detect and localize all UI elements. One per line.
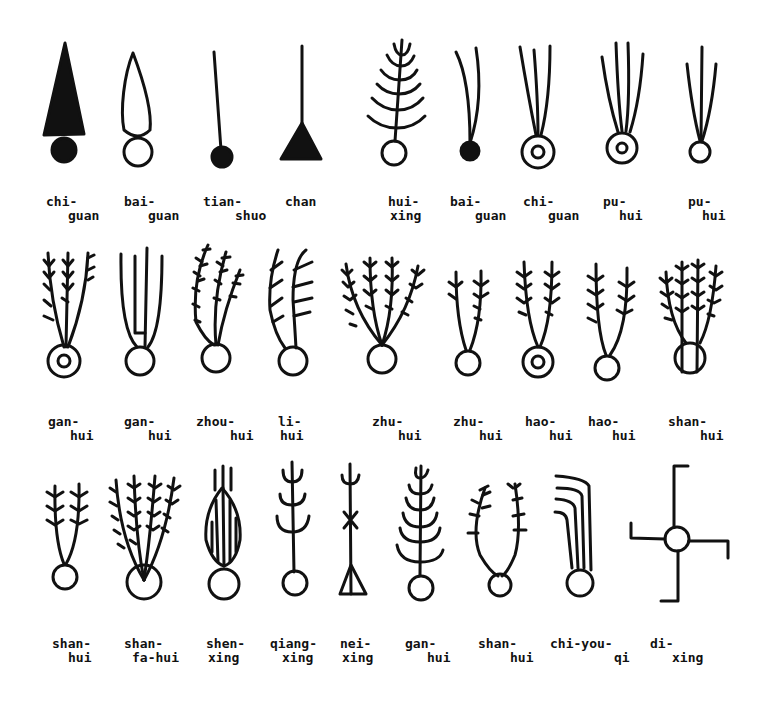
label-shan-hui-1: shan-hui xyxy=(668,415,723,443)
comet-di-xing xyxy=(631,466,728,601)
comet-gan-hui-2 xyxy=(121,248,162,375)
comet-diagram: chi-guanbai-guantian-shuochanhui-xingbai… xyxy=(0,0,768,704)
comet-bai-guan-1 xyxy=(122,53,152,166)
label-chi-guan-2: chi-guan xyxy=(523,195,579,223)
label-qiang-xing: qiang-xing xyxy=(270,637,317,665)
comet-pu-hui-1 xyxy=(602,43,643,163)
label-zhu-hui-2: zhu-hui xyxy=(453,415,502,443)
label-di-xing: di-xing xyxy=(650,637,703,665)
comet-zhu-hui-1 xyxy=(342,258,424,373)
label-chan: chan xyxy=(285,195,316,209)
label-hao-hui-2: hao-hui xyxy=(588,415,635,443)
label-chi-guan-1: chi-guan xyxy=(46,195,99,223)
label-bai-guan-1: bai-guan xyxy=(124,195,179,223)
comet-zhou-hui xyxy=(193,245,243,372)
comet-li-hui xyxy=(270,250,312,375)
label-shan-hui-2: shan-hui xyxy=(52,637,91,665)
comet-tian-shuo xyxy=(212,52,232,167)
label-chi-you-qi: chi-you-qi xyxy=(550,637,630,665)
label-pu-hui-1: pu-hui xyxy=(603,195,642,223)
label-zhou-hui: zhou-hui xyxy=(196,415,253,443)
comet-qiang-xing xyxy=(277,462,309,595)
comet-pu-hui-2 xyxy=(687,47,716,162)
label-zhu-hui-1: zhu-hui xyxy=(372,415,421,443)
comet-nei-xing xyxy=(340,464,366,594)
comet-shan-hui-2 xyxy=(47,484,87,589)
label-shan-fa-hui: shan-fa-hui xyxy=(124,637,179,665)
label-pu-hui-2: pu-hui xyxy=(688,195,725,223)
label-nei-xing: nei-xing xyxy=(340,637,373,665)
comet-chi-guan-2 xyxy=(520,46,554,168)
label-shan-hui-3: shan-hui xyxy=(478,637,533,665)
comet-drawings xyxy=(0,0,768,704)
comet-bai-guan-2 xyxy=(456,48,479,160)
label-tian-shuo: tian-shuo xyxy=(203,195,266,223)
comet-hao-hui-1 xyxy=(517,262,559,377)
comet-chi-guan-1 xyxy=(44,43,84,162)
comet-gan-hui-1 xyxy=(44,253,94,377)
comet-shan-hui-3 xyxy=(468,484,526,596)
label-hao-hui-1: hao-hui xyxy=(525,415,572,443)
label-gan-hui-3: gan-hui xyxy=(405,637,450,665)
label-gan-hui-1: gan-hui xyxy=(48,415,93,443)
comet-hui-xing xyxy=(368,40,425,165)
label-hui-xing: hui-xing xyxy=(388,195,421,223)
label-shen-xing: shen-xing xyxy=(206,637,245,665)
comet-shan-hui-1 xyxy=(660,260,722,373)
label-li-hui: li-hui xyxy=(278,415,303,443)
comet-shan-fa-hui xyxy=(110,476,180,599)
comet-chan xyxy=(281,46,321,159)
comet-shen-xing xyxy=(206,466,240,599)
comet-chi-you-qi xyxy=(555,476,593,596)
comet-gan-hui-3 xyxy=(397,466,443,600)
comet-zhu-hui-2 xyxy=(449,271,488,375)
comet-hao-hui-2 xyxy=(588,264,634,380)
label-gan-hui-2: gan-hui xyxy=(124,415,171,443)
label-bai-guan-2: bai-guan xyxy=(450,195,506,223)
